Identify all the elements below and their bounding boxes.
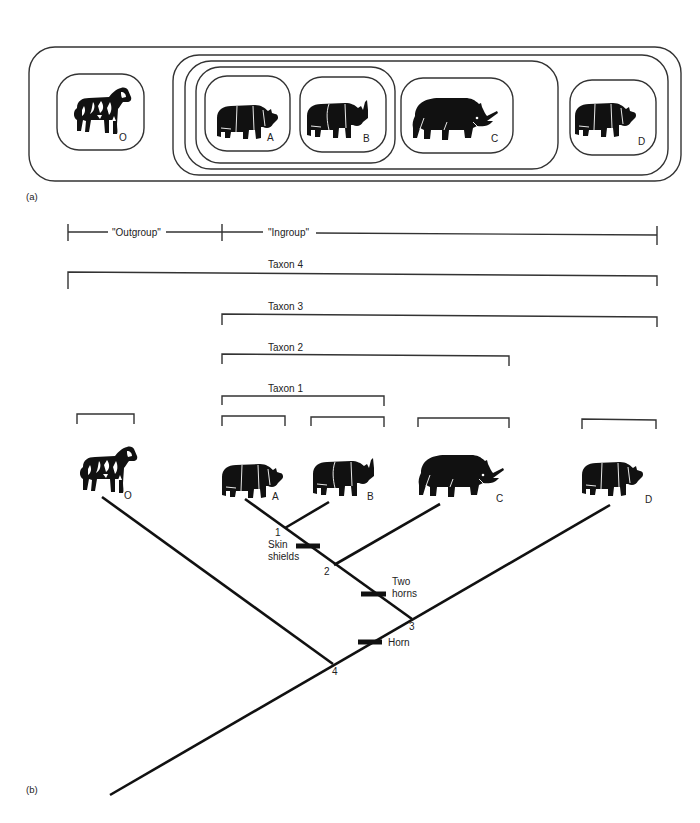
- panel-b-label: (b): [26, 784, 38, 795]
- taxon-label-b: B: [363, 133, 370, 144]
- tip-a: A: [222, 464, 283, 502]
- rhino-icon: [313, 458, 374, 496]
- taxon-box-o: O: [57, 74, 144, 150]
- panel-a: O A B C D (a): [26, 47, 681, 202]
- cladogram-figure: O A B C D (a): [0, 0, 700, 823]
- panel-b: "Outgroup" "Ingroup" Taxon 4 Taxon 3 Tax…: [26, 224, 657, 795]
- tip-label-b: B: [367, 491, 374, 502]
- tip-c: C: [419, 455, 504, 504]
- tip-bracket-c: [418, 418, 509, 428]
- tip-d: D: [582, 462, 652, 505]
- panel-a-label: (a): [26, 191, 38, 202]
- character-two-horns-line2: horns: [392, 588, 417, 599]
- taxon1-bracket: Taxon 1: [222, 383, 384, 406]
- ingroup-label: "Ingroup": [268, 227, 309, 238]
- tip-label-d: D: [645, 494, 652, 505]
- node-label-4: 4: [332, 666, 338, 677]
- taxon2-label: Taxon 2: [268, 342, 303, 353]
- taxon1-label: Taxon 1: [268, 383, 303, 394]
- rhino-icon: [419, 455, 504, 497]
- character-skin-shields-line2: shields: [268, 551, 299, 562]
- node-label-1: 1: [275, 527, 281, 538]
- taxon-label-a: A: [267, 132, 274, 143]
- taxon-box-d: D: [570, 80, 656, 155]
- taxon4-bracket: Taxon 4: [68, 259, 657, 289]
- node-label-3: 3: [409, 621, 415, 632]
- branch-c: [334, 504, 440, 565]
- taxon-label-o: O: [119, 132, 127, 143]
- branch-b: [285, 502, 329, 528]
- tip-label-c: C: [496, 493, 503, 504]
- taxon4-label: Taxon 4: [268, 259, 303, 270]
- rhino-icon: [575, 103, 636, 137]
- taxon3-label: Taxon 3: [268, 301, 303, 312]
- zebra-icon: [80, 447, 137, 493]
- tip-o: O: [80, 447, 137, 501]
- character-horn: Horn: [388, 637, 410, 648]
- outgroup-label: "Outgroup": [112, 227, 161, 238]
- tip-b: B: [313, 458, 374, 502]
- cladogram-branches: [102, 497, 610, 795]
- rhino-icon: [307, 100, 368, 138]
- taxon3-bracket: Taxon 3: [222, 301, 657, 327]
- rhino-icon: [582, 462, 643, 496]
- taxon-label-d: D: [638, 136, 645, 147]
- taxon-box-c: C: [401, 78, 513, 153]
- taxon2-bracket: Taxon 2: [222, 342, 509, 366]
- tip-bracket-d: [582, 419, 656, 429]
- tip-label-o: O: [124, 490, 132, 501]
- character-two-horns-line1: Two: [392, 576, 411, 587]
- branch-o: [102, 497, 333, 664]
- tip-bracket-a: [222, 416, 285, 426]
- taxon-box-a: A: [205, 76, 290, 151]
- branch-root-to-d: [110, 505, 610, 795]
- tip-label-a: A: [272, 491, 279, 502]
- tip-bracket-o: [77, 414, 134, 424]
- character-skin-shields-line1: Skin: [268, 539, 287, 550]
- node-label-2: 2: [324, 566, 330, 577]
- rhino-icon: [413, 98, 498, 140]
- group-bar: "Outgroup" "Ingroup": [68, 224, 657, 245]
- tip-bracket-b: [311, 417, 384, 427]
- taxon-box-b: B: [300, 77, 386, 152]
- zebra-icon: [74, 88, 131, 134]
- taxon-label-c: C: [491, 133, 498, 144]
